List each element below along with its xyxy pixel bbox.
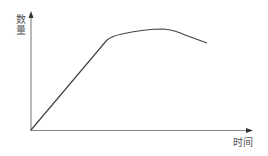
x-axis-label: 时间 (233, 137, 253, 148)
x-axis-arrow-icon (246, 128, 253, 133)
y-axis-label: 数 量 (15, 14, 27, 36)
y-axis-arrow-icon (29, 11, 34, 18)
y-axis (29, 11, 34, 131)
chart-canvas (0, 0, 268, 156)
x-axis (30, 128, 253, 133)
y-axis-label-char: 量 (15, 25, 27, 36)
y-axis-label-char: 数 (15, 14, 27, 25)
data-curve (31, 29, 207, 130)
